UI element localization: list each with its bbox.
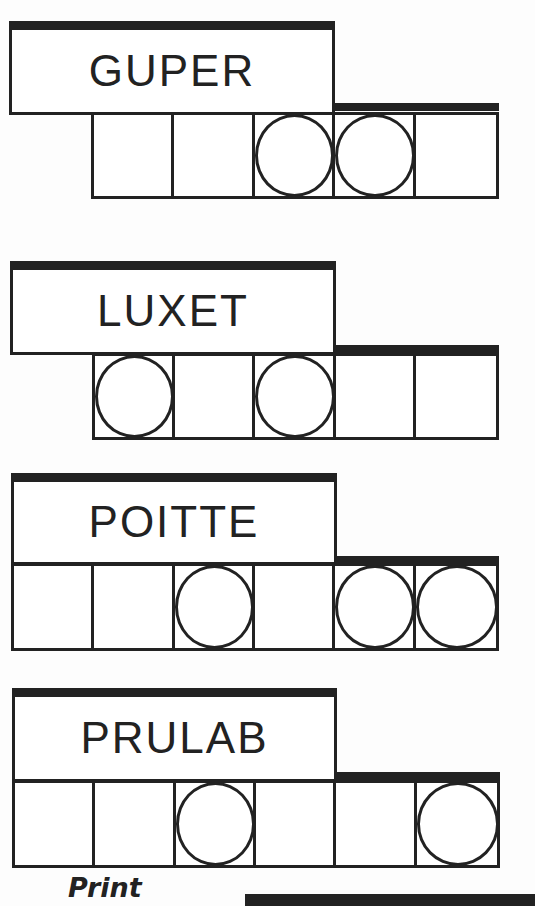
scrambled-word: GUPER	[89, 49, 255, 93]
letter-cell-circled[interactable]	[95, 356, 175, 437]
answer-grid	[91, 112, 499, 199]
letter-cell-circled[interactable]	[335, 115, 415, 196]
circle-marker	[416, 565, 498, 649]
letter-cell[interactable]	[336, 783, 416, 865]
grid-top-bar	[333, 103, 499, 111]
answer-grid	[92, 353, 499, 440]
scrambled-word: PRULAB	[80, 716, 268, 760]
letter-cell[interactable]	[14, 566, 94, 648]
circle-marker	[255, 114, 334, 197]
letter-cell-circled[interactable]	[176, 783, 256, 865]
letter-cell-circled[interactable]	[255, 115, 335, 196]
letter-cell-circled[interactable]	[175, 566, 255, 648]
circle-marker	[175, 565, 254, 649]
final-answer-bar	[245, 894, 535, 906]
scrambled-word: LUXET	[97, 289, 249, 333]
letter-cell-circled[interactable]	[416, 566, 496, 648]
grid-top-bar	[334, 345, 499, 353]
letter-cell[interactable]	[174, 115, 254, 196]
scrambled-word-box: PRULAB	[12, 688, 337, 782]
letter-cell[interactable]	[336, 356, 416, 437]
circle-marker	[335, 565, 414, 649]
letter-cell[interactable]	[15, 783, 95, 865]
circle-marker	[95, 355, 174, 438]
letter-cell[interactable]	[256, 783, 336, 865]
scrambled-word: POITTE	[89, 500, 260, 544]
letter-cell[interactable]	[416, 115, 496, 196]
scrambled-word-box: POITTE	[11, 473, 337, 565]
letter-cell[interactable]	[94, 566, 174, 648]
answer-grid	[12, 780, 500, 868]
circle-marker	[255, 355, 334, 438]
letter-cell[interactable]	[94, 115, 174, 196]
circle-marker	[417, 782, 499, 866]
grid-top-bar	[335, 772, 500, 780]
letter-cell[interactable]	[175, 356, 255, 437]
letter-cell[interactable]	[416, 356, 496, 437]
answer-grid	[11, 563, 499, 651]
letter-cell[interactable]	[95, 783, 175, 865]
scrambled-word-box: LUXET	[10, 261, 336, 355]
circle-marker	[335, 114, 414, 197]
scrambled-word-box: GUPER	[9, 21, 335, 115]
letter-cell-circled[interactable]	[417, 783, 497, 865]
print-label: Print	[68, 872, 142, 903]
circle-marker	[176, 782, 255, 866]
letter-cell[interactable]	[255, 566, 335, 648]
letter-cell-circled[interactable]	[335, 566, 415, 648]
letter-cell-circled[interactable]	[255, 356, 335, 437]
